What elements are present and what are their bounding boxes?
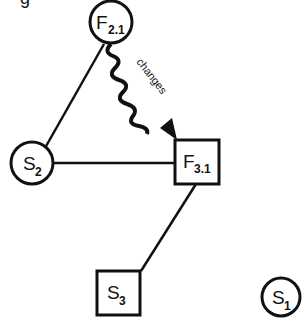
edge-label-changes: changes xyxy=(134,56,169,97)
svg-text:2: 2 xyxy=(35,165,42,179)
svg-text:3.1: 3.1 xyxy=(194,162,211,176)
svg-text:F: F xyxy=(183,151,195,172)
arrowhead-icon xyxy=(160,118,177,140)
node-f2-1: F 2.1 xyxy=(90,1,132,43)
diagram-canvas: g changes F 2.1 F 3.1 S 2 S 3 S 1 xyxy=(0,0,303,319)
svg-text:2.1: 2.1 xyxy=(108,23,125,37)
edge-f31-s3 xyxy=(141,184,196,271)
svg-text:S: S xyxy=(107,282,120,303)
cut-off-text-fragment: g xyxy=(20,0,30,8)
svg-text:S: S xyxy=(23,153,36,174)
svg-text:3: 3 xyxy=(119,294,126,308)
node-s1: S 1 xyxy=(262,278,300,316)
node-s2: S 2 xyxy=(11,142,53,184)
svg-text:S: S xyxy=(272,287,285,308)
svg-text:1: 1 xyxy=(284,299,291,313)
edge-f21-s2 xyxy=(45,44,104,148)
svg-text:F: F xyxy=(96,12,108,33)
node-f3-1: F 3.1 xyxy=(175,140,219,184)
node-s3: S 3 xyxy=(97,271,140,315)
